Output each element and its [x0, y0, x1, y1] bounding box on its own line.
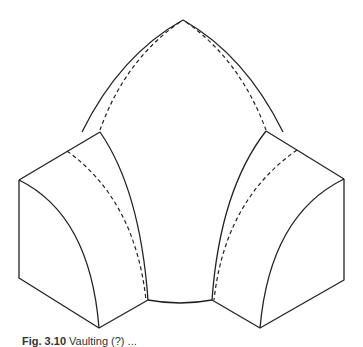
caption-text: Vaulting (?) ...: [69, 335, 137, 347]
right-hidden-arc: [186, 22, 266, 130]
left-hidden-arc: [100, 22, 180, 130]
right-inner-hidden: [214, 150, 297, 300]
left-block-top-front: [100, 132, 148, 300]
left-block-top-edge: [19, 132, 100, 180]
figure-caption: Fig. 3.10 Vaulting (?) ...: [22, 335, 137, 347]
right-block-top-front: [212, 131, 266, 300]
right-outer-arc: [183, 20, 283, 132]
left-outer-arc: [82, 20, 183, 132]
right-block-front-arc: [260, 179, 344, 328]
right-block-top-edge: [266, 131, 344, 179]
left-inner-hidden: [67, 151, 146, 300]
right-block-side: [212, 179, 344, 328]
left-block-front-arc: [19, 180, 99, 328]
caption-label: Fig. 3.10: [22, 335, 66, 347]
bottom-arc: [148, 300, 212, 303]
